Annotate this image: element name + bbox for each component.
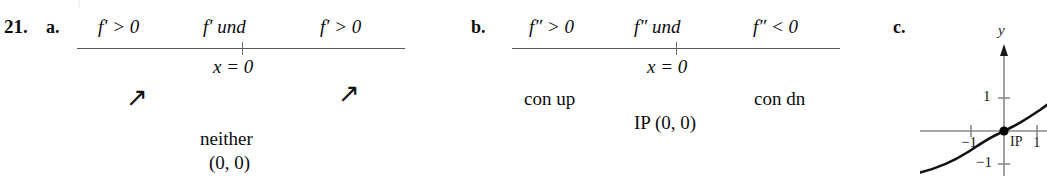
part-b-inflection: IP (0, 0) [634,112,696,134]
part-c-label: c. [893,17,906,38]
page-artifact-top: | [78,0,80,8]
part-b-concavity-left: con up [524,88,575,110]
graph-y-tick-neg-label: −1 [976,154,992,171]
part-b-sign-right: f″ < 0 [753,16,798,38]
part-a-sign-mid: f′ und [203,16,246,38]
part-a-tick-x0 [242,42,243,55]
part-a-arrow-left-icon: ↗ [126,84,148,110]
part-b-tick-x0 [676,42,677,55]
part-a-sign-right: f′ > 0 [320,16,361,38]
part-b-sign-mid-text: f″ und [634,16,680,37]
exercise-number: 21. [4,16,28,38]
graph-y-axis-label: y [998,22,1005,39]
part-b-concavity-right: con dn [754,88,805,110]
part-a-conclusion-point: (0, 0) [209,152,250,174]
part-b-sign-mid: f″ und [634,16,680,38]
graph-ip-label: IP [1010,134,1022,150]
part-a-arrow-right-icon: ↗ [338,80,360,106]
graph-y-tick-pos-label: 1 [983,88,991,105]
inflection-point-dot [999,126,1008,135]
part-a-conclusion: neither [200,128,253,150]
y-axis-arrowhead-icon [1000,44,1008,56]
part-b-sign-left: f″ > 0 [529,16,574,38]
part-b-label: b. [471,17,486,38]
part-a-number-line [77,48,405,49]
part-a-label: a. [46,17,60,38]
part-a-tick-label: x = 0 [213,56,253,78]
part-b-tick-label: x = 0 [647,56,687,78]
part-a-sign-left: f′ > 0 [98,16,139,38]
graph-x-tick-neg-label: −1 [961,134,977,151]
graph-x-tick-pos-label: 1 [1033,134,1041,151]
part-c-graph: y 1 −1 −1 1 IP [920,16,1047,176]
part-a-sign-mid-text: f′ und [203,16,246,37]
exercise-figure: | 21. a. f′ > 0 f′ und f′ > 0 x = 0 ↗ ↗ … [0,0,1047,176]
